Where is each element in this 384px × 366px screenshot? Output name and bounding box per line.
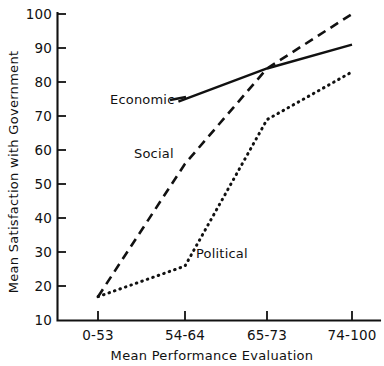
series-line-economic [178,45,352,102]
line-chart: Mean Satisfaction with Government 100 90… [0,0,384,366]
y-tick-label-10: 10 [34,312,52,328]
axis-spine-path [58,13,381,321]
y-tick-label-90: 90 [34,40,52,56]
y-axis-ticks [58,14,67,286]
x-axis-tick-labels: 0-53 54-64 65-73 74-100 [82,327,376,343]
x-axis-title: Mean Performance Evaluation [111,348,314,363]
y-tick-label-20: 20 [34,278,52,294]
y-tick-label-50: 50 [34,176,52,192]
x-tick-label-3: 74-100 [327,327,376,343]
x-axis-ticks [98,311,352,321]
y-tick-label-70: 70 [34,108,52,124]
x-tick-label-1: 54-64 [165,327,205,343]
y-tick-label-30: 30 [34,244,52,260]
series-label-economic: Economic [110,92,175,107]
y-tick-label-40: 40 [34,210,52,226]
x-tick-label-2: 65-73 [247,327,287,343]
y-tick-label-100: 100 [26,6,52,22]
series-label-political: Political [196,246,248,261]
series-annotation-social: Social [134,146,174,161]
y-axis-tick-labels: 100 90 80 70 60 50 40 30 20 10 [26,6,52,328]
y-axis-title: Mean Satisfaction with Government [6,51,21,294]
series-label-social: Social [134,146,174,161]
axis-spines [58,13,381,321]
y-tick-label-80: 80 [34,74,52,90]
series-annotation-economic: Economic [110,92,186,107]
series-annotation-political: Political [196,246,248,261]
chart-container: Mean Satisfaction with Government 100 90… [0,0,384,366]
y-tick-label-60: 60 [34,142,52,158]
x-tick-label-0: 0-53 [82,327,113,343]
